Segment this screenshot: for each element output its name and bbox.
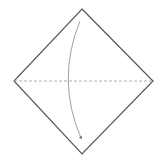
paper-square (14, 9, 153, 154)
origami-diagram (0, 0, 163, 161)
